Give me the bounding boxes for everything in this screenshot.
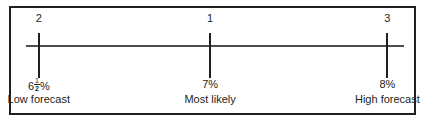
- tick-value-high-forecast: 8%: [327, 78, 427, 91]
- number-line-area: 2 612% Low forecast 1 7% Most likely 3 8…: [11, 8, 414, 113]
- tick-number-1: 1: [170, 12, 250, 25]
- tick-mark-most-likely: [209, 33, 211, 78]
- tick-value-most-likely: 7%: [150, 78, 270, 91]
- fraction-one-half: 12: [34, 77, 40, 92]
- tick-number-3: 3: [347, 12, 427, 25]
- tick-caption-most-likely: Most likely: [140, 93, 280, 106]
- tick-caption-high-forecast: High forecast: [317, 93, 427, 106]
- tick-value-suffix: %: [40, 80, 50, 92]
- fraction-denominator: 2: [34, 85, 40, 92]
- figure-frame: 2 612% Low forecast 1 7% Most likely 3 8…: [9, 6, 416, 115]
- tick-caption-low-forecast: Low forecast: [0, 93, 109, 106]
- tick-value-low-forecast: 612%: [0, 78, 99, 93]
- tick-number-2: 2: [0, 12, 79, 25]
- axis-line: [26, 45, 404, 47]
- tick-mark-high-forecast: [386, 33, 388, 78]
- tick-mark-low-forecast: [38, 33, 40, 78]
- fraction-numerator: 1: [34, 77, 40, 85]
